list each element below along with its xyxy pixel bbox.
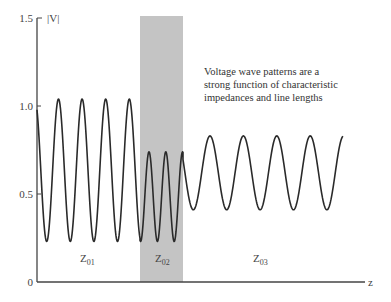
x-axis-label: z [368,276,373,288]
y-tick-label-0.5: 0.5 [19,188,33,200]
z01-label: Z01 [80,252,95,267]
voltage-standing-wave-chart: 1.5 1.0 0.5 0 |V| z Voltage wave pattern… [0,0,391,302]
y-axis-label: |V| [47,12,59,24]
voltage-curve [37,99,343,242]
y-tick-label-1.5: 1.5 [19,12,33,24]
y-tick-label-0: 0 [28,276,34,288]
z03-label: Z03 [253,252,268,267]
z02-shaded-region [140,16,183,282]
annotation-line-3: impedances and line lengths [204,92,323,103]
annotation-line-1: Voltage wave patterns are a [204,66,320,77]
y-tick-label-1.0: 1.0 [19,100,33,112]
annotation-line-2: strong function of characteristic [204,79,338,90]
